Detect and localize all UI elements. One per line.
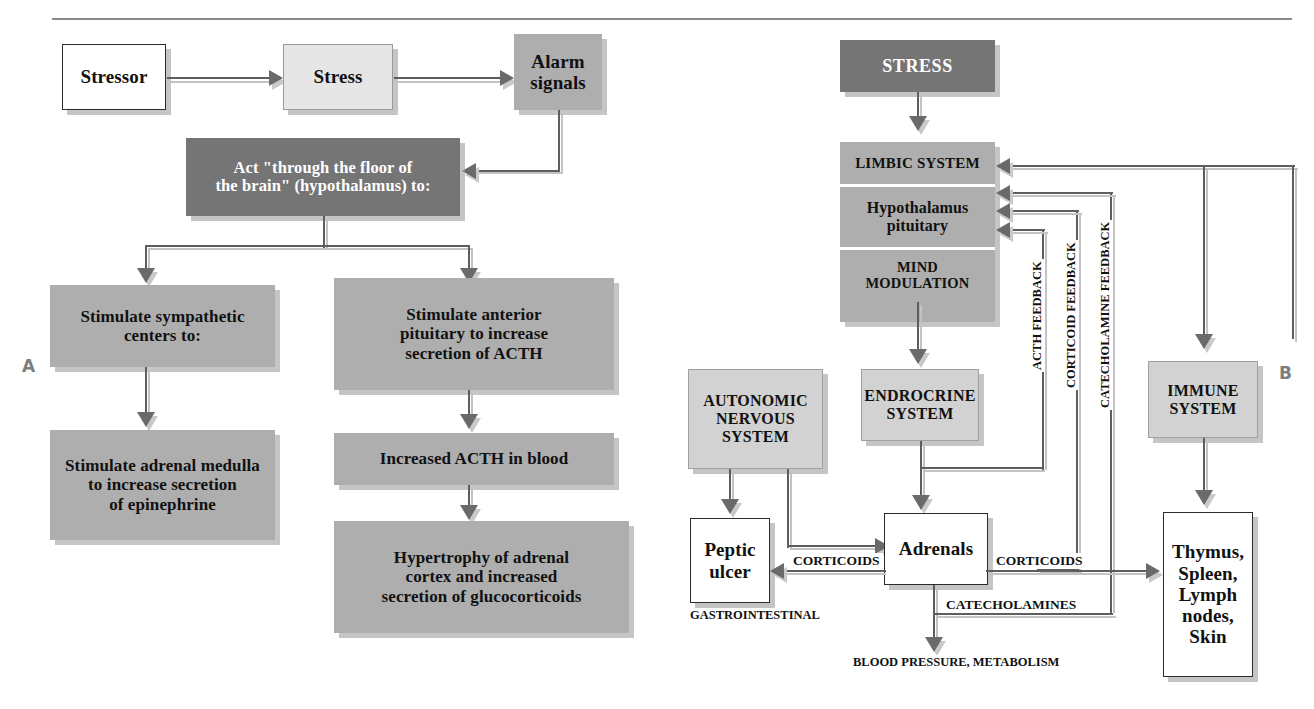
node-thymus-spleen-lymph-skin: Thymus, Spleen, Lymph nodes, Skin [1163,512,1253,677]
feedback-catecholamine-riser-shadow [1113,195,1115,613]
label-catecholamines: CATECHOLAMINES [943,597,1079,613]
feedback-acth-arrow [996,222,1010,238]
feedback-catecholamine-label: CATECHOLAMINE FEEDBACK [1098,220,1113,410]
node-endocrine-system-label: ENDROCRINE SYSTEM [860,387,979,423]
edge-alarm-hypo-h-shadow [479,172,563,174]
edge-adrenals-down [933,585,935,645]
edge-adrenals-thymus-shadow [989,573,1161,575]
edge-endocrine-adrenals [920,441,922,503]
feedback-catecholamine-head-h [1009,192,1113,194]
node-stress-label: Stress [310,66,367,87]
edge-alarm-hypo-v-shadow [561,112,563,174]
edge-to-immune-arrow [1195,334,1213,349]
edge-hypo-left-arrow [137,268,155,283]
node-thymus-spleen-lymph-skin-label: Thymus, Spleen, Lymph nodes, Skin [1168,541,1248,647]
feedback-immune-limbic-arrow [996,158,1010,174]
edge-alarm-hypo-arrow [462,163,476,179]
label-corticoids-right: CORTICOIDS [993,553,1086,569]
edge-adrenals-thymus [986,570,1158,572]
edge-endocrine-acth-branch [920,467,1042,469]
feedback-acth-label: ACTH FEEDBACK [1030,259,1045,372]
edge-stressor-stress [167,77,275,79]
feedback-acth-head-h-shadow [1012,232,1048,234]
label-corticoids-left: CORTICOIDS [790,553,883,569]
label-gastrointestinal: GASTROINTESTINAL [687,608,823,623]
edge-stressor-stress-arrow [269,70,283,86]
edge-catecholamines-h [933,613,1113,615]
edge-stressor-stress-shadow [170,81,278,83]
edge-acth-hyper-arrow [460,505,478,520]
feedback-catecholamine-head-h-shadow [1012,195,1116,197]
edge-ans-ulcer-arrow [721,499,739,514]
node-mind-modulation: MIND MODULATION [840,250,995,300]
edge-immune-thymus-arrow [1195,490,1213,505]
node-hypothalamus-pituitary-label: Hypothalamus pituitary [863,199,973,235]
node-peptic-ulcer-label: Peptic ulcer [700,539,759,582]
feedback-corticoid-arrow [996,203,1010,219]
node-stimulate-adrenal-medulla-label: Stimulate adrenal medulla to increase se… [61,456,264,513]
edge-symp-medulla-arrow [137,412,155,427]
label-blood-pressure-metabolism: BLOOD PRESSURE, METABOLISM [850,655,1062,670]
edge-to-immune-v [1203,165,1205,339]
node-alarm-signals: Alarm signals [514,34,602,110]
node-stimulate-sympathetic-centers-label: Stimulate sympathetic centers to: [76,307,248,345]
node-peptic-ulcer: Peptic ulcer [690,518,770,603]
node-endocrine-system: ENDROCRINE SYSTEM [861,369,979,441]
node-limbic-system: LIMBIC SYSTEM [840,142,995,184]
edge-adrenals-ulcer [783,570,886,572]
feedback-immune-limbic-v-shadow [1295,168,1297,342]
feedback-immune-limbic-h-shadow [1012,168,1298,170]
node-limbic-system-label: LIMBIC SYSTEM [851,155,984,172]
edge-endocrine-acth-branch-shadow [923,470,1045,472]
edge-stress-alarm-shadow [397,81,509,83]
edge-ans-adrenals-h [787,545,880,547]
edge-ans-adrenals-v [787,469,789,548]
node-increased-acth-in-blood-label: Increased ACTH in blood [376,449,573,468]
edge-stress-alarm-arrow [500,70,514,86]
node-increased-acth-in-blood: Increased ACTH in blood [334,433,614,485]
edge-hypo-split-bus [145,245,470,247]
node-hypothalamus-pituitary: Hypothalamus pituitary [840,187,995,247]
edge-adrenals-thymus-arrow [1146,563,1160,579]
edge-stress-limbic-arrow [909,116,927,131]
feedback-corticoid-riser-shadow [1079,213,1081,571]
node-mind-modulation-label: MIND MODULATION [840,259,995,291]
edge-adrenals-down-arrow [925,637,943,652]
edge-ans-adrenals-h-shadow [790,548,883,550]
node-adrenals: Adrenals [884,513,988,585]
feedback-corticoid-head-h-shadow [1012,213,1082,215]
node-immune-system: IMMUNE SYSTEM [1148,361,1258,438]
node-stimulate-sympathetic-centers: Stimulate sympathetic centers to: [50,285,275,367]
feedback-acth-riser-shadow [1045,232,1047,470]
panel-b-label: B [1279,363,1292,383]
edge-adrenals-ulcer-arrow [770,563,784,579]
panel-a-label: A [22,356,35,376]
node-hypertrophy-adrenal-cortex: Hypertrophy of adrenal cortex and increa… [334,521,629,633]
feedback-immune-limbic-v [1292,165,1294,339]
feedback-immune-limbic-h [1009,165,1295,167]
node-immune-system-label: IMMUNE SYSTEM [1163,382,1242,418]
edge-hypo-split-stub [323,216,325,248]
edge-ans-adrenals-v-shadow [790,472,792,548]
node-act-through-floor-of-brain: Act "through the floor of the brain" (hy… [186,138,460,216]
node-autonomic-nervous-system-label: AUTONOMIC NERVOUS SYSTEM [699,392,812,446]
node-stressor: Stressor [62,44,166,110]
figure-canvas: A Stressor Stress Alarm signals Act "thr… [0,0,1314,709]
top-divider-rule [52,18,1292,20]
edge-endocrine-adrenals-arrow [912,495,930,510]
node-stress-b-label: STRESS [878,56,957,76]
edge-hypo-split-bus-shadow [148,248,473,250]
node-act-through-floor-of-brain-label: Act "through the floor of the brain" (hy… [211,159,434,196]
node-stimulate-anterior-pituitary-label: Stimulate anterior pituitary to increase… [396,305,552,362]
edge-catecholamines-h-shadow [936,616,1116,618]
edge-adrenals-ulcer-shadow [786,573,886,575]
node-stressor-label: Stressor [77,66,152,87]
feedback-catecholamine-arrow [996,185,1010,201]
node-stress: Stress [283,44,393,110]
node-autonomic-nervous-system: AUTONOMIC NERVOUS SYSTEM [688,369,823,469]
feedback-corticoid-head-h [1009,210,1079,212]
edge-immune-thymus [1203,438,1205,498]
node-stress-b: STRESS [840,40,995,92]
edge-mind-endocrine-arrow [909,349,927,364]
edge-pituitary-acth-arrow [460,414,478,429]
